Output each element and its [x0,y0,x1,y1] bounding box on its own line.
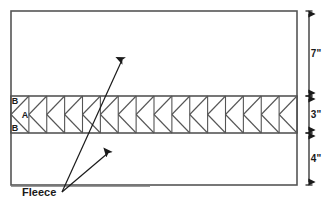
dimension-label: 4" [311,153,322,164]
section-label-a-1: A [22,110,29,120]
dimension-7in: 7" [306,11,322,96]
dimension-label: 7" [311,48,322,59]
section-label-b-0: B [12,96,19,106]
fleece-diagram: BAB 7"3"4" Fleece [0,0,324,211]
zigzag-band-group [11,96,297,133]
fleece-label: Fleece [22,186,56,198]
diagram-canvas: BAB 7"3"4" Fleece [0,0,324,211]
dimension-4in: 4" [306,133,322,185]
dimension-group: 7"3"4" [306,11,322,185]
section-label-b-2: B [12,123,19,133]
dimension-label: 3" [311,109,322,120]
dimension-3in: 3" [306,96,322,133]
